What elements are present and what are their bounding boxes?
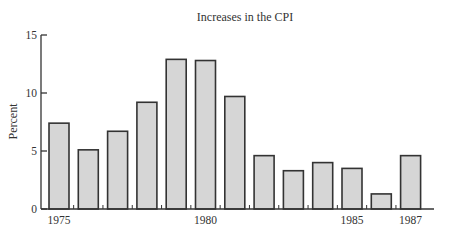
x-tick-label: 1987 [399, 214, 422, 226]
x-tick-label: 1975 [48, 214, 71, 226]
y-tick-label: 0 [31, 203, 37, 215]
bar-1984 [313, 163, 333, 209]
x-tick-label: 1980 [194, 214, 217, 226]
y-tick-label: 10 [26, 87, 38, 99]
bar-1985 [342, 168, 362, 209]
x-tick-label: 1985 [341, 214, 364, 226]
y-tick-label: 15 [26, 29, 38, 41]
bar-1978 [137, 102, 157, 209]
bar-1986 [371, 194, 391, 209]
bar-chart: 1975198019851987051015 [0, 0, 450, 232]
bar-1983 [283, 171, 303, 209]
bar-1980 [196, 61, 216, 209]
bar-1977 [108, 131, 128, 209]
bar-1987 [401, 156, 421, 209]
bar-1982 [254, 156, 274, 209]
bar-1979 [166, 59, 186, 209]
bar-1976 [78, 150, 98, 209]
bar-1981 [225, 96, 245, 209]
bar-1975 [49, 123, 69, 209]
y-tick-label: 5 [31, 145, 37, 157]
